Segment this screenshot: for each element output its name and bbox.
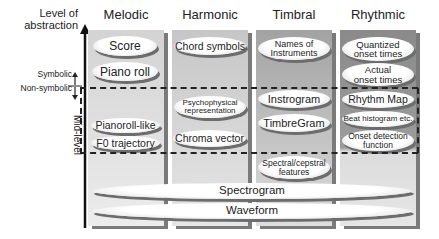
non-symbolic-label: Non-symbolic: [2, 84, 72, 93]
ellipse-label: TimbreGram: [263, 118, 324, 129]
ellipse-label: Chroma vector: [175, 133, 244, 144]
ellipse-label: Rhythm Map: [348, 94, 408, 105]
ellipse-label: Pianoroll-like: [95, 120, 155, 131]
ellipse-label: Beat histogram etc.: [344, 115, 413, 123]
ellipse-timbregram: TimbreGram: [258, 114, 330, 132]
ellipse-waveform: Waveform: [92, 203, 412, 219]
ellipse-label: F0 trajectory: [96, 138, 154, 149]
mid-level-lower-boundary-line: [80, 152, 418, 154]
ellipse-spectrogram: Spectrogram: [92, 183, 412, 199]
ellipse-label: Piano roll: [100, 66, 150, 78]
ellipse-pianoroll-like: Pianoroll-like: [91, 118, 160, 133]
symbolic-boundary-line: [80, 87, 418, 89]
ellipse-onset-detection-function: Onset detection function: [342, 130, 414, 151]
ellipse-score: Score: [93, 36, 157, 56]
ellipse-label-line2: features: [279, 168, 310, 177]
ellipse-quantized-onset-times: Quantized onset times: [342, 37, 414, 61]
ellipse-label: Spectrogram: [219, 185, 285, 197]
ellipse-label: Instrogram: [268, 94, 321, 105]
ellipse-label-line2: function: [363, 141, 393, 150]
ellipse-chroma-vector: Chroma vector: [173, 130, 246, 147]
ellipse-label-line2: onset times: [354, 75, 403, 85]
ellipse-label: Waveform: [226, 205, 278, 217]
ellipse-names-of-instruments: Names of Instruments: [258, 37, 330, 60]
axis-title: Level of abstraction: [2, 8, 78, 31]
ellipse-piano-roll: Piano roll: [92, 62, 158, 81]
ellipse-rhythm-map: Rhythm Map: [342, 91, 414, 108]
axis-title-line1: Level of: [2, 8, 78, 20]
ellipse-label-line2: Instruments: [270, 49, 317, 58]
axis-title-line2: abstraction: [2, 20, 78, 32]
ellipse-instrogram: Instrogram: [258, 90, 330, 108]
ellipse-actual-onset-times: Actual onset times: [342, 63, 414, 86]
ellipse-psychophysical: Psychophysical representation: [174, 96, 246, 118]
column-title-timbral: Timbral: [254, 7, 334, 22]
column-title-harmonic: Harmonic: [170, 7, 250, 22]
ellipse-spectral-cepstral: Spectral/cepstral features: [258, 156, 330, 179]
column-title-melodic: Melodic: [86, 7, 166, 22]
symbolic-label: Symbolic: [4, 70, 72, 79]
ellipse-label-line2: onset times: [354, 49, 403, 59]
ellipse-chord-symbols: Chord symbols: [174, 37, 246, 55]
ellipse-label: Chord symbols: [175, 41, 245, 52]
ellipse-beat-histogram: Beat histogram etc.: [342, 111, 414, 127]
ellipse-f0-trajectory: F0 trajectory: [91, 136, 160, 150]
ellipse-label-line2: representation: [184, 107, 235, 115]
column-title-rhythmic: Rhythmic: [338, 7, 418, 22]
ellipse-label: Score: [109, 40, 140, 52]
mid-level-bracket-right: [417, 88, 419, 153]
